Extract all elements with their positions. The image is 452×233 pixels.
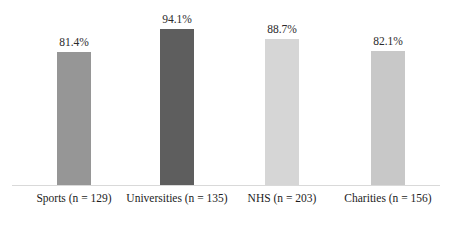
bar-group-sports: 81.4% <box>57 52 91 185</box>
category-label-charities: Charities (n = 156) <box>330 191 446 206</box>
bar-group-nhs: 88.7% <box>265 39 299 185</box>
category-label-universities: Universities (n = 135) <box>120 191 234 206</box>
bar-value-label: 82.1% <box>373 35 403 48</box>
bar[interactable] <box>371 51 405 185</box>
x-axis-baseline <box>12 185 440 186</box>
bar-group-charities: 82.1% <box>371 51 405 185</box>
bar-value-label: 88.7% <box>267 23 297 36</box>
bar-group-universities: 94.1% <box>160 29 194 185</box>
bar-value-label: 94.1% <box>162 13 192 26</box>
category-label-nhs: NHS (n = 203) <box>222 191 342 206</box>
bar-chart: 81.4% Sports (n = 129) 94.1% Universitie… <box>0 0 452 233</box>
bar[interactable] <box>160 29 194 185</box>
bar[interactable] <box>57 52 91 185</box>
bar-value-label: 81.4% <box>59 36 89 49</box>
category-label-sports: Sports (n = 129) <box>12 191 136 206</box>
bar[interactable] <box>265 39 299 185</box>
